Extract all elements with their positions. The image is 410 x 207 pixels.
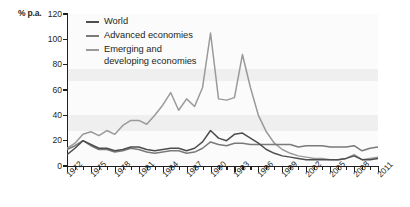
legend-swatch-world [86,21,99,23]
x-tick-mark [298,167,299,171]
y-tick-label: 20 [16,135,62,145]
legend-label-world: World [104,16,128,28]
legend-label-advanced-economies: Advanced economies [104,30,193,42]
x-tick-mark [155,167,156,171]
x-tick-mark [370,167,371,171]
chart-legend: World Advanced economies Emerging and de… [86,16,197,70]
y-tick-mark [63,39,67,40]
x-tick-mark [131,167,132,171]
x-tick-mark [322,167,323,171]
x-tick-mark [346,167,347,171]
y-tick-label: 0 [16,161,62,171]
x-tick-mark [83,167,84,171]
y-tick-label: 60 [16,85,62,95]
y-tick-mark [63,115,67,116]
y-tick-label: 120 [16,9,62,19]
y-tick-label: 80 [16,59,62,69]
y-tick-mark [63,89,67,90]
y-tick-mark [63,13,67,14]
legend-label-emerging-economies: Emerging and developing economies [104,44,197,67]
y-tick-mark [63,140,67,141]
y-tick-label: 40 [16,110,62,120]
x-tick-mark [107,167,108,171]
x-tick-mark [274,167,275,171]
legend-item-advanced-economies: Advanced economies [86,30,197,42]
x-tick-mark [250,167,251,171]
chart-figure: % p.a. 020406080100120 19721975197819811… [0,0,410,207]
y-tick-mark [63,165,67,166]
legend-swatch-emerging-economies [86,49,99,51]
series-line-advanced-economies [67,141,378,154]
y-tick-mark [63,64,67,65]
legend-item-emerging-economies: Emerging and developing economies [86,44,197,67]
legend-item-world: World [86,16,197,28]
y-tick-label: 100 [16,34,62,44]
legend-swatch-advanced-economies [86,35,99,37]
